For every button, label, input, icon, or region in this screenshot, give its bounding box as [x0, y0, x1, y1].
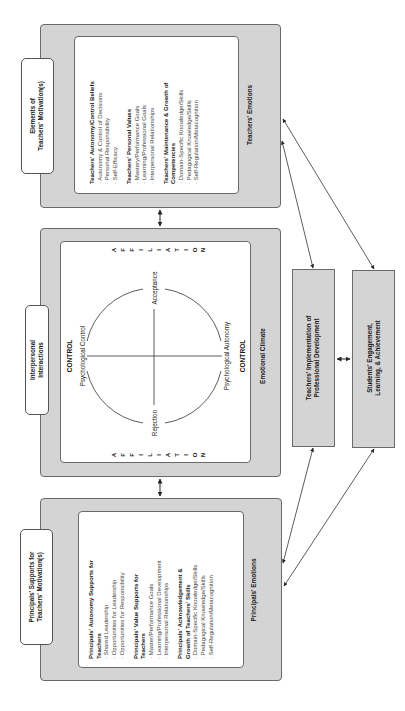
circle-axes [87, 309, 222, 405]
double-arrow-connectors [160, 210, 350, 496]
diagram-connectors [0, 0, 405, 711]
diagonal-arrows [282, 119, 374, 586]
